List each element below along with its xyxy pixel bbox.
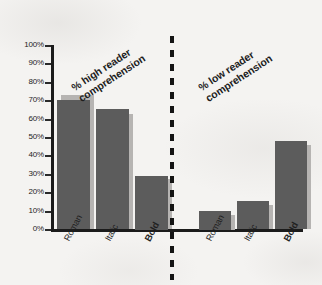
- y-tick-label: 100%: [4, 41, 44, 49]
- chart-figure: 100% 90% 80% 70% 60% 50% 40% 30% 20% 10%…: [0, 0, 322, 285]
- panel-divider: [170, 36, 174, 280]
- x-axis-line: [51, 229, 303, 232]
- y-axis-line: [51, 45, 54, 231]
- y-tick-label: 80%: [4, 78, 44, 86]
- left-panel-title: % high reader comprehension: [69, 41, 147, 104]
- y-tick-label: 60%: [4, 115, 44, 123]
- y-tick-label: 20%: [4, 188, 44, 196]
- y-tick-label: 40%: [4, 151, 44, 159]
- right-panel-title: % low reader comprehension: [196, 41, 274, 104]
- bar-left-roman: [57, 100, 90, 229]
- y-tick-label: 30%: [4, 170, 44, 178]
- bar-left-italic: [96, 109, 129, 229]
- y-tick-label: 50%: [4, 133, 44, 141]
- bar-right-bold: [275, 141, 307, 229]
- y-tick-label: 90%: [4, 59, 44, 67]
- plot-area: 100% 90% 80% 70% 60% 50% 40% 30% 20% 10%…: [0, 0, 322, 285]
- y-tick-label: 10%: [4, 207, 44, 215]
- y-tick-label: 70%: [4, 96, 44, 104]
- y-tick-label: 0%: [4, 225, 44, 233]
